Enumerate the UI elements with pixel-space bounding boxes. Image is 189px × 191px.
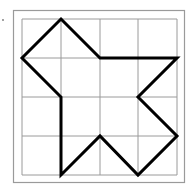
grid-lines (22, 19, 177, 175)
grid-figure (0, 0, 189, 191)
marker-dot (2, 19, 4, 21)
